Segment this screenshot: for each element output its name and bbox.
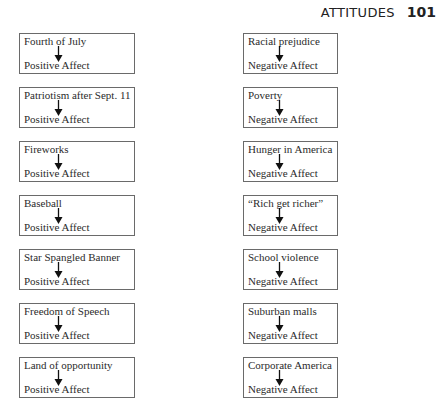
affect-label: Positive Affect [24, 113, 89, 125]
association-box: Hunger in America Negative Affect [243, 141, 338, 182]
negative-affect-column: Racial prejudice Negative Affect Poverty… [243, 33, 338, 411]
association-box: Suburban malls Negative Affect [243, 303, 338, 344]
association-box: Freedom of Speech Positive Affect [19, 303, 135, 344]
affect-label: Positive Affect [24, 329, 89, 341]
affect-label: Positive Affect [24, 221, 89, 233]
affect-label: Negative Affect [248, 275, 318, 287]
affect-label: Positive Affect [24, 383, 89, 395]
association-box: Racial prejudice Negative Affect [243, 33, 338, 74]
running-title: ATTITUDES [321, 5, 395, 20]
affect-label: Negative Affect [248, 329, 318, 341]
affect-label: Negative Affect [248, 113, 318, 125]
affect-label: Negative Affect [248, 59, 318, 71]
affect-label: Negative Affect [248, 167, 318, 179]
association-box: Patriotism after Sept. 11 Positive Affec… [19, 87, 135, 128]
association-box: Land of opportunity Positive Affect [19, 357, 135, 398]
page-header: ATTITUDES 101 [321, 4, 436, 20]
association-box: Corporate America Negative Affect [243, 357, 338, 398]
attitude-object-label: Freedom of Speech [24, 305, 110, 317]
association-box: Baseball Positive Affect [19, 195, 135, 236]
attitude-object-label: Land of opportunity [24, 359, 113, 371]
affect-label: Negative Affect [248, 383, 318, 395]
affect-label: Positive Affect [24, 59, 89, 71]
association-box: Fireworks Positive Affect [19, 141, 135, 182]
affect-label: Positive Affect [24, 275, 89, 287]
association-box: School violence Negative Affect [243, 249, 338, 290]
attitude-object-label: Star Spangled Banner [24, 251, 120, 263]
association-box: “Rich get richer” Negative Affect [243, 195, 338, 236]
attitude-object-label: Patriotism after Sept. 11 [24, 89, 131, 101]
association-box: Fourth of July Positive Affect [19, 33, 135, 74]
attitude-object-label: Hunger in America [248, 143, 332, 155]
page-number: 101 [407, 4, 436, 20]
attitude-object-label: Corporate America [248, 359, 332, 371]
affect-label: Positive Affect [24, 167, 89, 179]
attitude-object-label: “Rich get richer” [248, 197, 323, 209]
association-box: Poverty Negative Affect [243, 87, 338, 128]
affect-label: Negative Affect [248, 221, 318, 233]
positive-affect-column: Fourth of July Positive Affect Patriotis… [19, 33, 135, 411]
association-box: Star Spangled Banner Positive Affect [19, 249, 135, 290]
